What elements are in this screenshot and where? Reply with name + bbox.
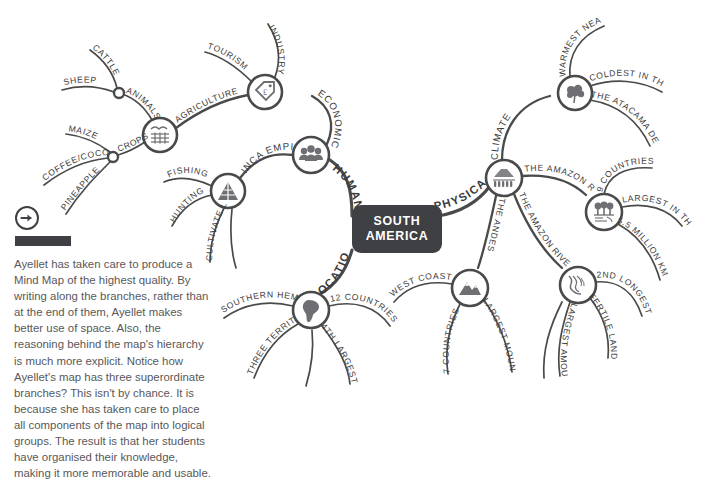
leaf-fertile-land[interactable]: FERTILE LAND (587, 291, 619, 360)
center-node-line1: SOUTH (374, 214, 421, 228)
leaf-tourism[interactable]: TOURISM (205, 41, 253, 82)
leaf-fertile-label: FERTILE LAND (587, 291, 619, 360)
leaf-fishing[interactable]: FISHING (164, 165, 212, 186)
leaf-2nd-longest[interactable]: 2ND LONGEST (596, 269, 654, 316)
branch-human-label: HUMAN (331, 162, 365, 212)
center-node-line2: AMERICA (366, 229, 429, 243)
leaf-coffee-cocoa[interactable]: COFFEE/COCOA (0, 0, 110, 185)
leaf-warmest-near-equator[interactable]: WARMEST NEAR EQUATOR (0, 0, 604, 78)
leaf-agriculture-label: AGRICULTURE (173, 86, 240, 125)
divider-rule (15, 236, 71, 246)
branch-animals-label: ANIMALS (125, 85, 163, 122)
node-human[interactable] (293, 137, 329, 173)
node-climate[interactable] (558, 76, 592, 110)
node-inca-empire[interactable] (211, 174, 245, 208)
leaf-tourism-label: TOURISM (206, 41, 250, 73)
side-panel: Ayellet has taken care to produce a Mind… (14, 205, 219, 481)
leaf-continent-line (306, 330, 313, 386)
leaf-fishing-label: FISHING (166, 165, 211, 180)
junction-animals (114, 88, 124, 98)
center-node[interactable]: SOUTH AMERICA (352, 205, 442, 253)
leaf-cattle-label: CATTLE (91, 42, 122, 77)
leaf-industry-label: INDUSTRY (267, 23, 287, 76)
leaf-12-countries[interactable]: 12 COUNTRIES (329, 292, 400, 326)
node-amazon-rainforest[interactable] (586, 194, 622, 230)
node-economic[interactable]: £ (248, 75, 282, 109)
branch-animals[interactable]: ANIMALS (122, 85, 163, 122)
branch-agriculture[interactable]: AGRICULTURE (173, 86, 249, 128)
leaf-2ndlongest-label: 2ND LONGEST (596, 269, 654, 315)
arrow-right-circle-icon[interactable] (14, 205, 40, 231)
leaf-sheep[interactable]: SHEEP (62, 74, 114, 92)
leaf-land-line (231, 209, 236, 268)
leaf-12countries-label: 12 COUNTRIES (329, 292, 400, 325)
node-agriculture[interactable] (143, 118, 177, 152)
leaf-7countries-label: 7 COUNTRIES (441, 306, 462, 374)
leaf-cultivate-land-2[interactable] (231, 209, 238, 268)
svg-text:£: £ (263, 88, 267, 97)
side-panel-body: Ayellet has taken care to produce a Mind… (14, 256, 214, 481)
leaf-sheep-line (62, 86, 114, 92)
leaf-fishing-line (164, 179, 212, 186)
branch-physical[interactable]: PHYSICAL (0, 0, 490, 216)
leaf-coffee-label: COFFEE/COCOA (0, 0, 110, 183)
leaf-9countries-label: 9 COUNTRIES (594, 156, 654, 193)
branch-physical-label: PHYSICAL (0, 0, 489, 212)
branch-crops[interactable]: CROPS (116, 130, 150, 155)
leaf-9-countries[interactable]: 9 COUNTRIES (594, 156, 654, 194)
branch-andes[interactable]: THE ANDES (478, 196, 507, 270)
leaf-sheep-label: SHEEP (62, 74, 97, 87)
branch-climate-label: CLIMATE (489, 111, 513, 160)
branch-crops-label: CROPS (116, 130, 150, 153)
branch-climate[interactable]: CLIMATE (489, 92, 550, 162)
leaf-west-coast[interactable]: WEST COAST (388, 271, 453, 302)
branch-climate-line (502, 96, 550, 160)
leaf-7-countries[interactable]: 7 COUNTRIES (441, 304, 462, 374)
leaf-industry[interactable]: INDUSTRY (267, 23, 287, 79)
leaf-5-5-million-km[interactable]: 5.5 MILLION KM (616, 215, 671, 280)
node-physical[interactable] (486, 160, 522, 196)
leaf-warmest-label: WARMEST NEAR EQUATOR (0, 0, 603, 77)
